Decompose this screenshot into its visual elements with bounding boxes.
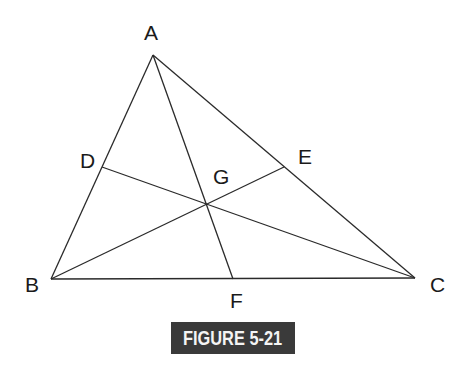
cevian-cd <box>102 167 415 278</box>
figure-caption-badge: FIGURE 5-21 <box>171 322 295 354</box>
label-f: F <box>230 290 243 311</box>
figure-caption: FIGURE 5-21 <box>183 327 282 350</box>
label-g: G <box>213 166 229 187</box>
label-d: D <box>80 150 95 171</box>
label-e: E <box>298 146 312 167</box>
cevian-be <box>51 167 284 279</box>
label-c: C <box>430 274 445 295</box>
label-a: A <box>144 22 158 43</box>
label-b: B <box>25 274 39 295</box>
